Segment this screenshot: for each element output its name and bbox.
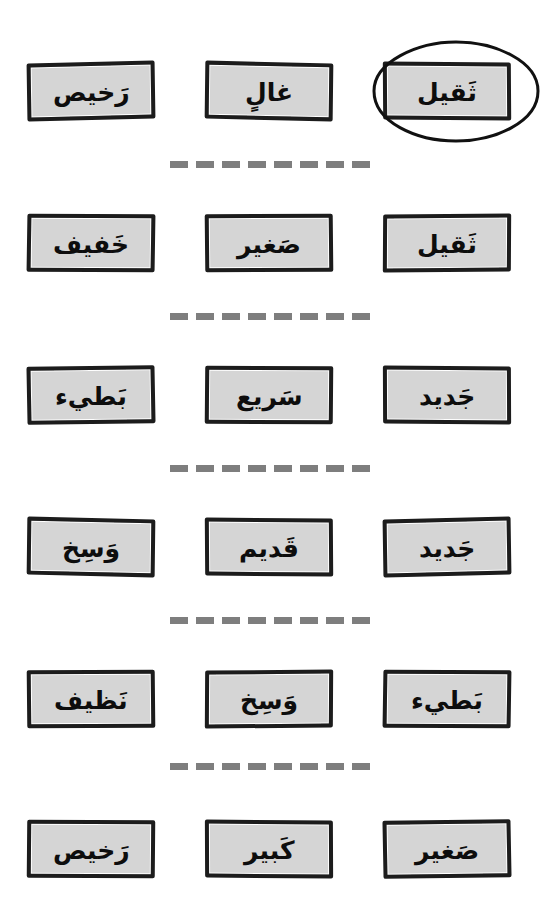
card-row-4: وَسِخ قَديم جَديد	[0, 518, 551, 588]
flashcard[interactable]: بَطيء	[383, 670, 512, 728]
flashcard-word: بَطيء	[55, 384, 127, 409]
card-row-1: رَخيص غالٍ ثَقيل	[0, 62, 551, 132]
flashcard-word: ثَقيل	[417, 80, 477, 105]
flashcard-word: سَريع	[236, 384, 303, 409]
flashcard-word: صَغير	[415, 838, 479, 863]
flashcard[interactable]: وَسِخ	[27, 517, 156, 578]
flashcard[interactable]: رَخيص	[27, 820, 156, 878]
flashcard[interactable]: قَديم	[205, 518, 333, 577]
card-row-6: رَخيص كَبير صَغير	[0, 820, 551, 890]
flashcard[interactable]: نَظيف	[27, 670, 156, 728]
row-divider	[170, 763, 376, 770]
flashcard[interactable]: كَبير	[205, 819, 333, 878]
flashcard[interactable]: رَخيص	[27, 60, 156, 121]
flashcard-word: وَسِخ	[62, 535, 120, 560]
flashcard[interactable]: صَغير	[382, 819, 511, 879]
row-divider	[170, 313, 376, 320]
flashcard-word: جَديد	[419, 384, 475, 409]
flashcard[interactable]: جَديد	[383, 365, 511, 424]
flashcard[interactable]: خَفيف	[27, 214, 156, 272]
flashcard-word: رَخيص	[53, 838, 130, 863]
row-divider	[170, 465, 376, 472]
flashcard-word: قَديم	[239, 536, 299, 561]
flashcard-word: وَسِخ	[240, 688, 298, 713]
flashcard-word: رَخيص	[53, 79, 130, 104]
flashcard-word: كَبير	[244, 838, 295, 863]
flashcard[interactable]: جَديد	[383, 516, 512, 577]
flashcard-sheet: رَخيص غالٍ ثَقيل خَفيف صَغير ثَقيل بَطيء	[0, 0, 551, 918]
flashcard-word: ثَقيل	[417, 232, 477, 257]
flashcard[interactable]: غالٍ	[205, 61, 334, 122]
flashcard-circled[interactable]: ثَقيل	[383, 62, 511, 121]
flashcard-word: نَظيف	[54, 688, 128, 713]
flashcard[interactable]: وَسِخ	[205, 669, 333, 728]
flashcard-word: خَفيف	[53, 232, 129, 257]
flashcard[interactable]: بَطيء	[26, 365, 155, 425]
flashcard[interactable]: صَغير	[205, 214, 334, 272]
flashcard-word: بَطيء	[411, 688, 483, 713]
flashcard-word: صَغير	[237, 232, 301, 257]
row-divider	[170, 161, 376, 168]
row-divider	[170, 617, 376, 624]
flashcard[interactable]: سَريع	[205, 366, 334, 424]
flashcard[interactable]: ثَقيل	[383, 213, 511, 272]
flashcard-word: جَديد	[419, 535, 475, 560]
card-row-5: نَظيف وَسِخ بَطيء	[0, 670, 551, 740]
card-row-2: خَفيف صَغير ثَقيل	[0, 214, 551, 284]
card-row-3: بَطيء سَريع جَديد	[0, 366, 551, 436]
flashcard-word: غالٍ	[245, 79, 293, 104]
